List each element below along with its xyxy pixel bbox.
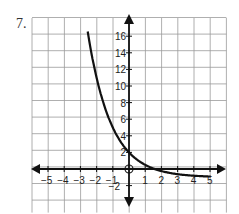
exponential-curve xyxy=(88,32,211,177)
x-tick-label: 3 xyxy=(175,175,181,186)
x-tick-label: 1 xyxy=(142,175,148,186)
y-tick-labels: 161412108642−2 xyxy=(109,31,127,191)
y-tick-label: 10 xyxy=(115,81,127,92)
y-tick-label: −2 xyxy=(109,181,121,192)
y-tick-label: 6 xyxy=(120,114,126,125)
y-tick-label: 16 xyxy=(115,31,127,42)
x-tick-label: −2 xyxy=(90,175,102,186)
y-axis-up-arrow-icon xyxy=(124,14,134,24)
y-axis xyxy=(124,14,134,207)
coordinate-graph: −5−4−3−2−112345 161412108642−2 xyxy=(0,0,239,214)
y-axis-down-arrow-icon xyxy=(124,197,134,207)
y-tick-label: 12 xyxy=(115,64,127,75)
y-tick-label: 4 xyxy=(120,131,126,142)
x-axis-right-arrow-icon xyxy=(217,164,226,174)
x-tick-label: −4 xyxy=(57,175,69,186)
x-tick-labels: −5−4−3−2−112345 xyxy=(41,175,213,186)
y-tick-label: 8 xyxy=(120,98,126,109)
x-tick-label: −3 xyxy=(73,175,85,186)
y-tick-label: 14 xyxy=(115,48,127,59)
x-tick-label: 2 xyxy=(158,175,164,186)
x-tick-label: −5 xyxy=(41,175,53,186)
